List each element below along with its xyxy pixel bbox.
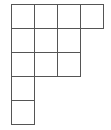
diagram-cell-r1-c3 — [57, 4, 81, 29]
diagram-cell-r1-c1 — [11, 4, 35, 29]
diagram-cell-r4-c1 — [11, 76, 35, 101]
young-diagram — [0, 0, 111, 130]
diagram-cell-r2-c1 — [11, 28, 35, 53]
diagram-cell-r2-c3 — [57, 28, 81, 53]
diagram-cell-r5-c1 — [11, 100, 35, 125]
diagram-cell-r3-c2 — [34, 52, 58, 77]
diagram-cell-r2-c2 — [34, 28, 58, 53]
diagram-cell-r1-c4 — [80, 4, 104, 29]
diagram-cell-r3-c1 — [11, 52, 35, 77]
diagram-cell-r3-c3 — [57, 52, 81, 77]
diagram-cell-r1-c2 — [34, 4, 58, 29]
